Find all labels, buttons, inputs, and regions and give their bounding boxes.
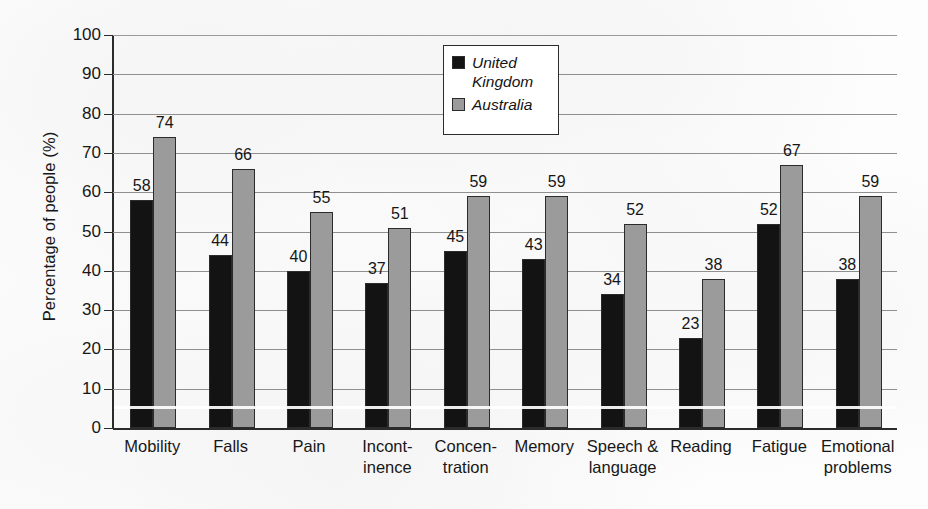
y-axis-tick-mark xyxy=(104,74,113,75)
bar-au xyxy=(702,279,725,428)
bar-au xyxy=(859,196,882,428)
bar-uk xyxy=(757,224,780,428)
legend-swatch-australia xyxy=(452,98,465,111)
y-axis-tick-mark xyxy=(104,232,113,233)
y-axis-tick-label: 60 xyxy=(55,182,101,202)
bar-au xyxy=(624,224,647,428)
bar-value-label: 59 xyxy=(534,173,580,191)
bar-uk xyxy=(522,259,545,428)
bar-chart-figure: Percentage of people (%) 010203040506070… xyxy=(0,0,928,509)
bar-group: 3452 xyxy=(583,35,661,428)
bar-uk xyxy=(287,271,310,428)
bar-uk xyxy=(130,200,153,428)
y-axis-tick-mark xyxy=(104,153,113,154)
legend-label-australia: Australia xyxy=(472,95,532,114)
legend-label-line: Kingdom xyxy=(472,72,533,91)
bar-group: 3751 xyxy=(348,35,426,428)
y-axis-tick-label: 10 xyxy=(55,379,101,399)
bar-uk xyxy=(365,283,388,428)
y-axis-tick-label: 80 xyxy=(55,104,101,124)
x-axis-label-line: Emotional xyxy=(807,436,909,457)
bar-group: 5874 xyxy=(113,35,191,428)
bar-value-label: 55 xyxy=(298,189,344,207)
bar-group: 4466 xyxy=(191,35,269,428)
y-axis-tick-label: 20 xyxy=(55,339,101,359)
legend-item-united-kingdom: UnitedKingdom xyxy=(452,53,558,91)
bar-value-label: 59 xyxy=(455,173,501,191)
y-axis-tick-label: 50 xyxy=(55,222,101,242)
bar-group: 4055 xyxy=(270,35,348,428)
bar-group: 5267 xyxy=(740,35,818,428)
legend-item-australia: Australia xyxy=(452,95,558,114)
bar-uk xyxy=(444,251,467,428)
chart-legend: UnitedKingdom Australia xyxy=(443,45,559,135)
bar-au xyxy=(310,212,333,428)
bar-group: 3859 xyxy=(819,35,897,428)
bar-au xyxy=(388,228,411,428)
bar-value-label: 74 xyxy=(142,114,188,132)
x-axis-label: Emotionalproblems xyxy=(807,436,909,478)
y-axis-tick-mark xyxy=(104,35,113,36)
bar-au xyxy=(153,137,176,428)
y-axis-tick-label: 70 xyxy=(55,143,101,163)
y-axis-tick-label: 90 xyxy=(55,64,101,84)
y-axis-tick-label: 30 xyxy=(55,300,101,320)
legend-label-united-kingdom: UnitedKingdom xyxy=(472,53,533,91)
y-axis-tick-label: 0 xyxy=(55,418,101,438)
y-axis-tick-label: 100 xyxy=(55,25,101,45)
bar-au xyxy=(232,169,255,428)
y-axis-tick-mark xyxy=(104,428,113,429)
x-axis-label-line: language xyxy=(571,457,673,478)
x-axis-label-line: problems xyxy=(807,457,909,478)
bar-value-label: 67 xyxy=(769,142,815,160)
y-axis-tick-mark xyxy=(104,389,113,390)
y-axis-tick-mark xyxy=(104,349,113,350)
bar-uk xyxy=(209,255,232,428)
y-axis-tick-mark xyxy=(104,114,113,115)
bar-uk xyxy=(601,294,624,428)
x-axis-category-labels: MobilityFallsPainIncont-inenceConcen-tra… xyxy=(113,436,897,496)
y-axis-tick-mark xyxy=(104,310,113,311)
gridline xyxy=(113,428,897,430)
bar-value-label: 51 xyxy=(377,205,423,223)
bar-au xyxy=(467,196,490,428)
bar-uk xyxy=(836,279,859,428)
bar-uk xyxy=(679,338,702,428)
y-axis-tick-mark xyxy=(104,192,113,193)
y-axis-tick-label: 40 xyxy=(55,261,101,281)
x-axis-label-line: tration xyxy=(415,457,517,478)
bar-value-label: 66 xyxy=(220,146,266,164)
legend-label-line: United xyxy=(472,53,533,72)
bar-au xyxy=(780,165,803,428)
y-axis-tick-mark xyxy=(104,271,113,272)
bar-value-label: 38 xyxy=(690,256,736,274)
bar-au xyxy=(545,196,568,428)
bar-group: 2338 xyxy=(662,35,740,428)
bar-value-label: 52 xyxy=(612,201,658,219)
legend-swatch-united-kingdom xyxy=(452,56,465,69)
bar-value-label: 59 xyxy=(847,173,893,191)
legend-label-line: Australia xyxy=(472,95,532,114)
